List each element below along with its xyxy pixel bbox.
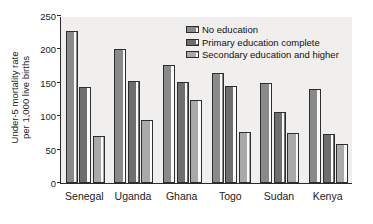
legend-item: No education [186,24,339,35]
y-axis-tick-mark [57,48,61,49]
bar-highlight [185,83,187,182]
legend: No educationPrimary education completeSe… [186,24,339,60]
x-axis-tick-label: Senegal [65,190,104,202]
y-axis-tick-label: 0 [51,179,56,189]
bar [114,49,126,183]
legend-label: Secondary education and higher [202,49,339,60]
bar [177,82,189,183]
bar [274,112,286,183]
y-axis-tick-label: 250 [40,12,56,22]
bar-highlight [344,145,346,182]
bar [190,100,202,184]
legend-swatch-icon [186,39,199,46]
bar-highlight [74,32,76,182]
y-axis-tick-mark [57,82,61,83]
bar-highlight [150,121,152,182]
bar [163,65,175,183]
y-axis-tick-mark [57,115,61,116]
bar [212,73,224,183]
bar-highlight [282,113,284,182]
bar-highlight [233,87,235,182]
x-axis-tick-label: Uganda [115,190,152,202]
bar [239,132,251,183]
y-axis-tick-label: 150 [40,79,56,89]
legend-swatch-icon [186,26,199,33]
legend-swatch-highlight [196,28,198,32]
bar-group [110,17,159,183]
bar-chart: Under-5 mortality rate per 1,000 live bi… [0,0,373,224]
bar-highlight [269,84,271,182]
bar-group [61,17,110,183]
bar [66,31,78,183]
x-axis-tick-labels: SenegalUgandaGhanaTogoSudanKenya [60,190,352,206]
bar-highlight [171,66,173,182]
legend-label: No education [202,24,258,35]
y-axis-tick-label: 50 [45,146,56,156]
bar [128,81,140,183]
legend-item: Secondary education and higher [186,49,339,60]
x-axis-tick-label: Sudan [264,190,294,202]
y-axis-tick-mark [57,149,61,150]
bar-highlight [87,88,89,182]
y-axis-tick-label: 100 [40,112,56,122]
bar [287,133,299,183]
bar-highlight [296,134,298,182]
legend-swatch-highlight [196,40,198,44]
legend-label: Primary education complete [202,37,320,48]
y-axis-tick-mark [57,15,61,16]
bar [79,87,91,183]
y-axis-tick-mark [57,182,61,183]
legend-swatch-highlight [196,53,198,57]
bar-highlight [331,135,333,182]
bar-highlight [101,137,103,182]
x-axis-tick-label: Togo [219,190,242,202]
bar [93,136,105,183]
bar-highlight [123,50,125,182]
bar [260,83,272,183]
x-axis-tick-label: Kenya [313,190,343,202]
bar-highlight [220,74,222,182]
bar-highlight [247,133,249,182]
legend-item: Primary education complete [186,37,339,48]
x-axis-tick-label: Ghana [166,190,198,202]
bar [141,120,153,183]
legend-swatch-icon [186,51,199,58]
y-axis-tick-label: 200 [40,45,56,55]
bar [309,89,321,183]
bar-highlight [136,82,138,182]
bar-highlight [198,101,200,183]
y-axis-title-line-1: Under-5 mortality rate [9,52,20,144]
y-axis-tick-labels: 050100150200250 [30,0,56,224]
bar [336,144,348,183]
bar [225,86,237,183]
bar-highlight [317,90,319,182]
bar [323,134,335,183]
